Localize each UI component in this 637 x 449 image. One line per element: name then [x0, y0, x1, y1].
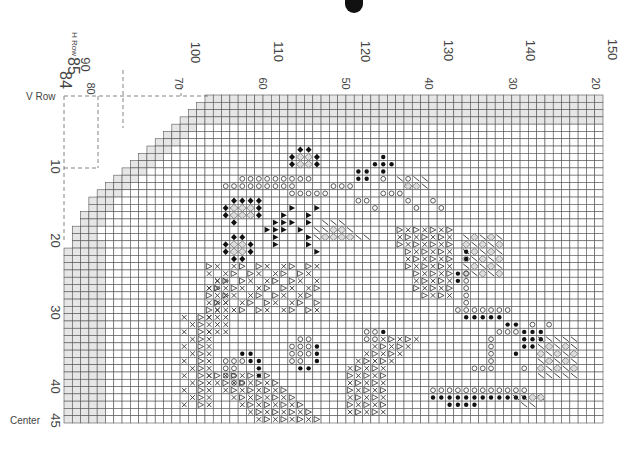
center-label: Center [10, 415, 40, 426]
h-row-label: H Row [70, 32, 78, 56]
inner-col-label: 20 [590, 77, 601, 89]
v-row-label: V Row [26, 91, 55, 102]
outer-col-label: 140 [524, 39, 537, 61]
row-label: 40 [49, 379, 62, 393]
inner-col-label: 80 [85, 82, 96, 94]
inner-col-label: 50 [340, 77, 351, 89]
inner-col-label: 30 [507, 77, 518, 89]
outer-col-label: 100 [189, 41, 202, 63]
outer-col-label: 90 [79, 57, 92, 71]
outer-col-label: 150 [606, 39, 619, 61]
row-label: 30 [49, 305, 62, 319]
inner-col-label: 60 [257, 77, 268, 89]
grid-cells [64, 95, 603, 423]
row-label: 20 [49, 233, 62, 247]
row-label: 10 [49, 159, 62, 173]
inner-col-label: 40 [423, 77, 434, 89]
knitting-chart-grid [0, 0, 637, 449]
outer-col-label: 130 [442, 40, 455, 62]
inner-col-label: 70 [173, 77, 184, 89]
outer-col-label: 120 [359, 40, 372, 62]
row-label: 45 [49, 413, 62, 427]
outer-col-label: 110 [272, 41, 285, 62]
h-row-end-label: 84 [57, 71, 73, 89]
